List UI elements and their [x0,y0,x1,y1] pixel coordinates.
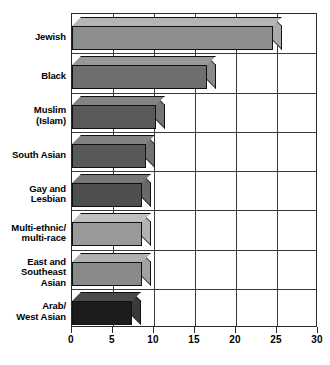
x-axis-tick-label: 15 [188,334,200,345]
bar-top-face [72,17,282,26]
gridline-horizontal [72,289,316,290]
plot-area [71,13,317,327]
y-axis-label: Multi-ethnic/ multi-race [0,223,66,244]
y-axis-label: Black [0,71,66,82]
y-axis-category-labels: JewishBlackMuslim (Islam)South AsianGay … [0,13,66,327]
y-axis-label: East and Southeast Asian [0,257,66,289]
gridline-horizontal [72,53,316,54]
gridline-horizontal [72,250,316,251]
gridline-vertical [236,14,237,326]
bar-top-face [72,174,151,183]
bar-front-face [72,26,273,50]
y-axis-label: Jewish [0,32,66,43]
bar-top-face [72,135,155,144]
bar-front-face [72,262,142,286]
bar [72,301,141,325]
bar-chart: JewishBlackMuslim (Islam)South AsianGay … [0,0,330,365]
bar [72,26,282,50]
x-axis-tick [194,327,195,333]
gridline-horizontal [72,132,316,133]
gridline-vertical [277,14,278,326]
bar-front-face [72,105,156,129]
bar-front-face [72,301,132,325]
bar-top-face [72,213,151,222]
gridline-horizontal [72,171,316,172]
x-axis-tick-labels: 051015202530 [0,334,330,350]
bar [72,105,165,129]
bar [72,65,216,89]
x-axis-tick [317,327,318,333]
x-axis-tick-label: 25 [270,334,282,345]
x-axis-tick [276,327,277,333]
gridline-horizontal [72,210,316,211]
x-axis-tick [112,327,113,333]
bar [72,144,155,168]
x-axis-tick-label: 20 [229,334,241,345]
bar-front-face [72,144,146,168]
x-axis-tick-label: 10 [147,334,159,345]
y-axis-label: Gay and Lesbian [0,184,66,205]
bar [72,183,151,207]
bar-top-face [72,96,165,105]
bar [72,262,151,286]
gridline-horizontal [72,93,316,94]
bar [72,222,151,246]
y-axis-label: Muslim (Islam) [0,105,66,126]
bar-top-face [72,253,151,262]
y-axis-label: Arab/ West Asian [0,301,66,322]
bar-top-face [72,292,141,301]
x-axis-tick [235,327,236,333]
bar-front-face [72,183,142,207]
x-axis-tick-label: 30 [311,334,323,345]
x-axis-tick-label: 0 [68,334,74,345]
x-axis-tick [71,327,72,333]
y-axis-label: South Asian [0,150,66,161]
x-axis-tick [153,327,154,333]
bar-front-face [72,222,142,246]
bar-front-face [72,65,207,89]
bar-top-face [72,56,216,65]
x-axis-tick-label: 5 [109,334,115,345]
